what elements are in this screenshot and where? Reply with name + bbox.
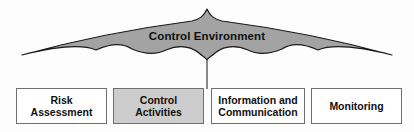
internal-control-framework-diagram: Control Environment Risk Assessment Cont… [0, 0, 414, 132]
component-line-2: Communication [218, 106, 297, 118]
component-box-text: Risk Assessment [29, 94, 95, 118]
component-line-2: Assessment [31, 106, 93, 118]
control-environment-arch-svg [0, 0, 414, 95]
component-box-information-and-communication[interactable]: Information and Communication [211, 88, 305, 124]
component-box-monitoring[interactable]: Monitoring [311, 88, 402, 124]
component-box-risk-assessment[interactable]: Risk Assessment [16, 88, 107, 124]
component-box-text: Control Activities [133, 94, 184, 118]
component-line-1: Information and [218, 94, 297, 106]
control-environment-label: Control Environment [0, 30, 414, 42]
component-box-control-activities[interactable]: Control Activities [113, 88, 204, 124]
component-line-1: Risk [50, 94, 72, 106]
component-box-text: Monitoring [327, 100, 385, 112]
control-environment-banner: Control Environment [0, 0, 414, 95]
component-line-2: Activities [135, 106, 182, 118]
component-line-1: Monitoring [329, 100, 383, 112]
component-line-1: Control [140, 94, 177, 106]
component-box-text: Information and Communication [216, 94, 299, 118]
component-boxes-row: Risk Assessment Control Activities Infor… [0, 88, 414, 126]
